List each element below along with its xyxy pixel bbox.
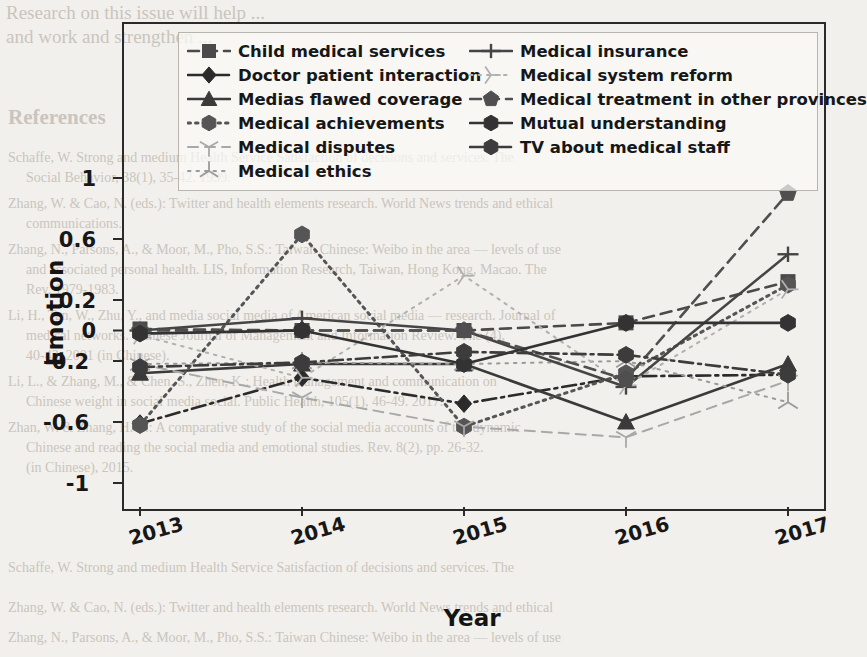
series-marker bbox=[133, 359, 148, 376]
series-marker bbox=[456, 395, 471, 413]
legend-label: Medical achievements bbox=[238, 114, 445, 133]
series-marker bbox=[458, 267, 475, 285]
legend-column-right: Medical insurance Medical system reform … bbox=[469, 39, 819, 183]
series-marker bbox=[619, 347, 634, 364]
legend-column-left: Child medical services Doctor patient in… bbox=[187, 39, 469, 183]
diamond-dashdot-marker-icon bbox=[187, 65, 231, 85]
chart-legend: Child medical services Doctor patient in… bbox=[178, 32, 818, 191]
legend-item[interactable]: Medical treatment in other provinces bbox=[469, 87, 819, 111]
x-axis-label: Year bbox=[122, 605, 822, 631]
y-tick-label: -1 bbox=[29, 472, 89, 496]
tri-down-dashed-light-marker-icon bbox=[187, 137, 231, 157]
legend-label: Doctor patient interaction bbox=[238, 66, 481, 85]
series-marker bbox=[295, 226, 310, 243]
series-marker bbox=[295, 354, 310, 371]
tri-star-dotted-light-marker-icon bbox=[187, 161, 231, 181]
series-marker bbox=[133, 325, 148, 342]
legend-label: Medical system reform bbox=[520, 66, 733, 85]
y-tick-label: 1 bbox=[36, 167, 96, 191]
series-marker bbox=[781, 315, 796, 332]
legend-label: Child medical services bbox=[238, 42, 445, 61]
legend-item[interactable]: Medical insurance bbox=[469, 39, 819, 63]
legend-item[interactable]: Mutual understanding bbox=[469, 111, 819, 135]
legend-label: Medical treatment in other provinces bbox=[520, 90, 867, 109]
series-marker bbox=[457, 344, 472, 361]
legend-label: Medical insurance bbox=[520, 42, 688, 61]
legend-item[interactable]: TV about medical staff bbox=[469, 135, 819, 159]
hexagon-dashdot-marker-icon bbox=[469, 137, 513, 157]
series-marker bbox=[618, 414, 635, 429]
legend-label: Mutual understanding bbox=[520, 114, 727, 133]
series-markers bbox=[130, 185, 799, 448]
legend-item[interactable]: Medical disputes bbox=[187, 135, 469, 159]
legend-item[interactable]: Medical system reform bbox=[469, 63, 819, 87]
legend-item[interactable]: Child medical services bbox=[187, 39, 469, 63]
axis-ticks bbox=[113, 178, 788, 516]
legend-item[interactable]: Medical ethics bbox=[187, 159, 469, 183]
hexagon-dotted-marker-icon bbox=[187, 113, 231, 133]
hexagon-solid-marker-icon bbox=[469, 113, 513, 133]
legend-item[interactable]: Doctor patient interaction bbox=[187, 63, 469, 87]
legend-label: Medical disputes bbox=[238, 138, 395, 157]
legend-label: Medias flawed coverage bbox=[238, 90, 462, 109]
legend-item[interactable]: Medias flawed coverage bbox=[187, 87, 469, 111]
series-marker bbox=[292, 392, 312, 408]
plus-bar-solid-marker-icon bbox=[469, 41, 513, 61]
square-dashed-marker-icon bbox=[187, 41, 231, 61]
series-marker bbox=[616, 432, 636, 448]
series-marker bbox=[295, 322, 310, 339]
series-marker bbox=[781, 366, 796, 383]
y-axis-label: Emotion bbox=[42, 233, 68, 393]
tri-right-dotted-light-marker-icon bbox=[469, 65, 513, 85]
series-marker bbox=[619, 315, 634, 332]
legend-label: TV about medical staff bbox=[520, 138, 730, 157]
legend-item[interactable]: Medical achievements bbox=[187, 111, 469, 135]
series-marker bbox=[133, 417, 148, 434]
pentagon-dashed-marker-icon bbox=[469, 89, 513, 109]
triangle-up-solid-marker-icon bbox=[187, 89, 231, 109]
legend-label: Medical ethics bbox=[238, 162, 371, 181]
y-tick-label: -0.6 bbox=[29, 411, 89, 435]
